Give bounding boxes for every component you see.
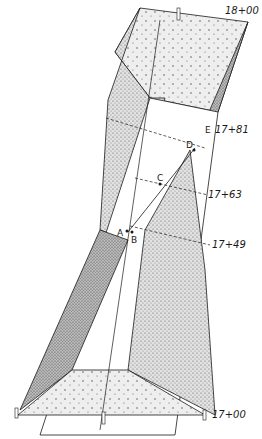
stake-bottom <box>102 412 105 424</box>
point-label-e: E <box>205 125 211 135</box>
station-label-1800: 18+00 <box>225 5 259 16</box>
cut-section-drawing: 18+00 17+81 17+63 17+49 17+00 A B C D E <box>0 0 262 439</box>
station-label-1700: 17+00 <box>212 409 246 420</box>
station-label-1763: 17+63 <box>208 189 242 200</box>
point-label-a: A <box>117 228 124 238</box>
point-label-c: C <box>157 173 163 183</box>
stake-bottom-left <box>15 408 18 418</box>
stake-bottom-right <box>203 410 206 420</box>
station-label-1749: 17+49 <box>212 239 246 250</box>
stake-top <box>177 8 180 20</box>
point-label-b: B <box>131 235 137 245</box>
point-a-marker <box>126 230 129 233</box>
station-label-1781: 17+81 <box>215 124 249 135</box>
point-b-marker <box>131 231 134 234</box>
point-d-marker <box>193 149 196 152</box>
point-label-d: D <box>186 140 193 150</box>
